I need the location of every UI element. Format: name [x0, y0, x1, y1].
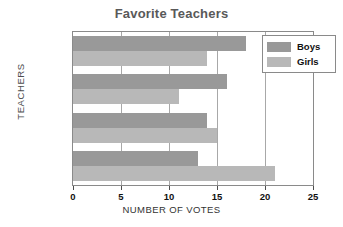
x-tick-mark — [121, 186, 122, 190]
x-tick-label: 10 — [154, 191, 184, 202]
bar-tallchief-girls — [73, 128, 217, 143]
bar-group — [73, 74, 313, 104]
x-tick-label: 0 — [58, 191, 88, 202]
y-axis-title: TEACHERS — [15, 42, 26, 142]
legend-item-girls: Girls — [267, 55, 331, 68]
x-tick-mark — [73, 186, 74, 190]
bar-nichols-girls — [73, 51, 207, 66]
x-tick-label: 5 — [106, 191, 136, 202]
x-tick-mark — [313, 186, 314, 190]
legend-swatch-girls-icon — [267, 57, 291, 67]
x-tick-label: 15 — [202, 191, 232, 202]
bar-torres-girls — [73, 166, 275, 181]
bar-tallchief-boys — [73, 113, 207, 128]
chart-title: Favorite Teachers — [0, 6, 343, 21]
legend-label-boys: Boys — [297, 41, 320, 52]
chart-legend: Boys Girls — [262, 35, 336, 73]
bar-davis-girls — [73, 89, 179, 104]
bar-torres-boys — [73, 151, 198, 166]
bar-nichols-boys — [73, 36, 246, 51]
x-tick-mark — [169, 186, 170, 190]
x-tick-label: 20 — [250, 191, 280, 202]
x-tick-mark — [217, 186, 218, 190]
bar-group — [73, 151, 313, 181]
bar-group — [73, 113, 313, 143]
x-tick-mark — [265, 186, 266, 190]
x-axis-title: NUMBER OF VOTES — [0, 204, 343, 215]
legend-item-boys: Boys — [267, 40, 331, 53]
x-tick-label: 25 — [298, 191, 328, 202]
legend-label-girls: Girls — [297, 56, 319, 67]
favorite-teachers-bar-chart: Favorite Teachers TEACHERS NicholsDavisT… — [0, 0, 343, 227]
bar-davis-boys — [73, 74, 227, 89]
legend-swatch-boys-icon — [267, 42, 291, 52]
